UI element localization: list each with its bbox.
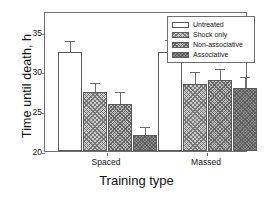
bar-spaced-shock-only bbox=[83, 92, 107, 151]
legend-label-associative: Associative bbox=[193, 50, 228, 59]
legend-swatch-non-associative bbox=[172, 42, 189, 48]
y-tick-label-20: 20 bbox=[26, 148, 42, 157]
errorbar-massed-shock-only bbox=[195, 73, 196, 84]
legend-item-non-associative: Non-associative bbox=[172, 40, 251, 49]
errorbar-cap-massed-associative bbox=[240, 77, 250, 78]
bar-spaced-untreated bbox=[58, 52, 82, 151]
errorbar-cap-spaced-untreated bbox=[65, 41, 75, 42]
legend-label-untreated: Untreated bbox=[193, 20, 224, 29]
bar-spaced-associative bbox=[133, 135, 157, 151]
y-tick-mark-20 bbox=[42, 153, 45, 154]
legend-item-shock-only: Shock only bbox=[172, 30, 251, 39]
errorbar-cap-spaced-associative bbox=[140, 127, 150, 128]
x-tick-mark-spaced bbox=[107, 153, 108, 156]
legend-item-associative: Associative bbox=[172, 50, 251, 59]
errorbar-cap-massed-non-associative bbox=[215, 69, 225, 70]
legend-label-non-associative: Non-associative bbox=[193, 40, 243, 49]
errorbar-massed-non-associative bbox=[220, 70, 221, 80]
legend-label-shock-only: Shock only bbox=[193, 30, 227, 39]
y-axis-tick-labels: 35 30 25 20 bbox=[24, 0, 42, 197]
errorbar-spaced-associative bbox=[145, 128, 146, 135]
legend-swatch-untreated bbox=[172, 22, 189, 28]
bar-massed-non-associative bbox=[208, 80, 232, 151]
errorbar-spaced-non-associative bbox=[120, 93, 121, 103]
plot-area: Untreated Shock only Non-associative Ass… bbox=[44, 12, 247, 152]
y-tick-label-35: 35 bbox=[26, 29, 42, 38]
bar-massed-associative bbox=[233, 88, 257, 151]
chart-legend: Untreated Shock only Non-associative Ass… bbox=[167, 16, 255, 63]
errorbar-massed-associative bbox=[245, 78, 246, 87]
bar-massed-shock-only bbox=[183, 84, 207, 151]
y-tick-label-25: 25 bbox=[26, 108, 42, 117]
errorbar-spaced-shock-only bbox=[95, 84, 96, 92]
bar-chart-figure: Time until death, h 35 30 25 20 bbox=[0, 0, 273, 197]
legend-item-untreated: Untreated bbox=[172, 20, 251, 29]
x-tick-label-spaced: Spaced bbox=[76, 157, 136, 167]
y-tick-label-30: 30 bbox=[26, 68, 42, 77]
errorbar-spaced-untreated bbox=[70, 42, 71, 52]
errorbar-cap-spaced-shock-only bbox=[90, 83, 100, 84]
bar-spaced-non-associative bbox=[108, 104, 132, 151]
x-tick-label-massed: Massed bbox=[176, 157, 236, 167]
x-axis-title: Training type bbox=[0, 173, 273, 188]
bar-massed-untreated bbox=[158, 52, 182, 151]
errorbar-cap-massed-shock-only bbox=[190, 72, 200, 73]
legend-swatch-associative bbox=[172, 52, 189, 58]
x-tick-mark-massed bbox=[207, 153, 208, 156]
errorbar-cap-spaced-non-associative bbox=[115, 92, 125, 93]
legend-swatch-shock-only bbox=[172, 32, 189, 38]
